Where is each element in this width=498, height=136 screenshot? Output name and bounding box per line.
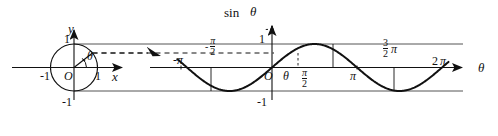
circle-y-tick-pos1-label: 1: [64, 33, 70, 45]
half-pi-numerator: π: [302, 68, 307, 78]
trig-figure: y 1 -1 -1 1 O x θ sin θ θ 1 -1 -π - π 2 …: [0, 0, 498, 136]
sine-origin-label: O: [264, 70, 273, 82]
two-pi-symbol: π: [440, 54, 446, 68]
circle-x-tick-pos1-label: 1: [95, 70, 101, 82]
tick-label-two-pi: 2π: [432, 52, 446, 68]
neg-half-pi-numerator: π: [210, 36, 215, 46]
tick-label-half-pi: π 2: [302, 68, 307, 89]
three-half-pi-symbol: π: [391, 43, 397, 55]
neg-half-pi-denominator: 2: [210, 46, 215, 57]
sine-curve-layer: [0, 0, 498, 136]
sine-x-axis-label: θ: [478, 61, 484, 74]
tick-label-pi: π: [350, 70, 356, 82]
tick-label-neg-pi: -π: [173, 54, 183, 66]
sine-theta-tick-label: θ: [283, 70, 289, 82]
half-pi-denominator: 2: [302, 78, 307, 89]
tick-label-three-half-pi: 3 2 π: [383, 33, 397, 59]
neg-half-pi-sign: -: [205, 42, 208, 52]
circle-x-axis-label: x: [112, 70, 118, 83]
sine-y-axis-label-fn: sin: [224, 6, 239, 19]
sine-y-tick-pos1-label: 1: [259, 33, 265, 45]
tick-label-neg-half-pi: - π 2: [205, 36, 215, 57]
three-half-pi-numerator: 3: [383, 38, 388, 48]
sine-y-axis-label-var: θ: [250, 5, 256, 18]
sine-y-tick-neg1-label: -1: [257, 96, 267, 108]
circle-y-tick-neg1-label: -1: [62, 96, 72, 108]
circle-origin-label: O: [64, 70, 73, 82]
circle-x-tick-neg1-label: -1: [40, 70, 50, 82]
two-pi-coefficient: 2: [432, 54, 438, 68]
circle-angle-theta-label: θ: [87, 50, 93, 62]
three-half-pi-denominator: 2: [383, 48, 388, 59]
